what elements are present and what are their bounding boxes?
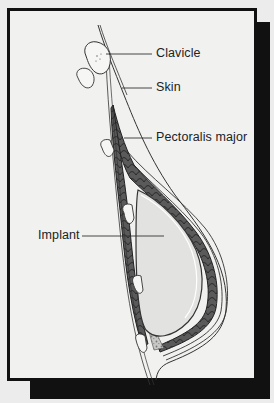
- label-skin: Skin: [156, 80, 181, 94]
- label-clavicle: Clavicle: [156, 46, 201, 60]
- rib-1: [77, 68, 94, 88]
- rib-5: [136, 334, 147, 352]
- label-implant: Implant: [38, 228, 80, 242]
- anatomy-illustration: [0, 0, 274, 403]
- label-pectoralis-major: Pectoralis major: [156, 130, 247, 144]
- implant-shape: [136, 190, 202, 336]
